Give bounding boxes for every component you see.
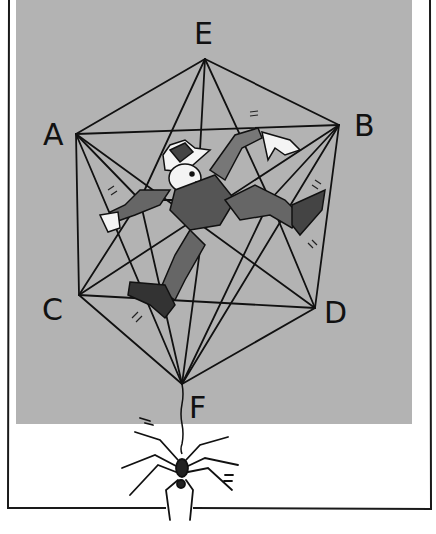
vertex-label-d: D <box>324 295 347 330</box>
vertex-label-f: F <box>189 390 206 425</box>
spider-icon <box>122 418 238 520</box>
vertex-label-b: B <box>354 108 375 143</box>
vertex-label-c: C <box>42 292 63 327</box>
vertex-label-e: E <box>194 16 213 51</box>
vertex-label-a: A <box>43 117 64 152</box>
icosahedron-illustration: E A B C D F <box>0 0 436 534</box>
